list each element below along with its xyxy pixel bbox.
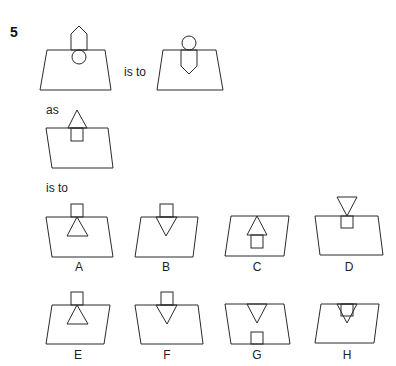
square <box>341 216 353 228</box>
parallelogram <box>46 128 113 168</box>
triangle-down <box>337 304 357 323</box>
option-label: H <box>343 348 352 362</box>
option-e[interactable]: E <box>46 292 110 362</box>
option-label: B <box>162 260 170 274</box>
pentagon-arrow-down <box>181 50 197 74</box>
option-label: F <box>163 348 170 362</box>
pentagon-arrow-up <box>71 26 87 50</box>
option-g[interactable]: G <box>225 304 290 362</box>
square <box>160 204 173 217</box>
parallelogram <box>46 217 113 257</box>
square <box>251 235 263 248</box>
triangle-up <box>247 216 267 235</box>
figure-1 <box>40 26 111 90</box>
connector-is-to-1: is to <box>124 65 146 79</box>
triangle-down <box>337 197 357 216</box>
option-f[interactable]: F <box>135 292 203 362</box>
option-label: C <box>253 260 262 274</box>
square <box>71 292 83 305</box>
parallelogram <box>135 217 198 257</box>
connector-is-to-2: is to <box>46 181 68 195</box>
connector-as: as <box>46 103 59 117</box>
triangle-down <box>156 305 177 324</box>
parallelogram <box>225 304 290 344</box>
square <box>71 128 83 141</box>
triangle-down <box>247 304 267 323</box>
triangle-up <box>67 217 88 236</box>
option-a[interactable]: A <box>46 204 113 274</box>
circle <box>72 50 86 64</box>
option-label: A <box>75 260 83 274</box>
question-number: 5 <box>10 24 18 40</box>
puzzle-canvas: 5 is to as is to A B C <box>0 0 396 366</box>
parallelogram <box>315 216 383 255</box>
option-d[interactable]: D <box>315 197 383 274</box>
option-label: E <box>74 348 82 362</box>
option-label: G <box>252 348 261 362</box>
square <box>251 332 263 344</box>
option-label: D <box>345 260 354 274</box>
option-h[interactable]: H <box>315 304 379 362</box>
option-c[interactable]: C <box>225 216 289 274</box>
triangle-down <box>156 217 177 236</box>
square <box>71 204 83 217</box>
parallelogram <box>135 305 203 344</box>
parallelogram <box>225 216 289 256</box>
trapezoid <box>40 50 111 90</box>
square <box>161 292 173 305</box>
figure-2 <box>157 36 223 90</box>
triangle-up <box>67 305 88 324</box>
circle <box>182 36 196 50</box>
triangle-up <box>68 110 87 128</box>
figure-3 <box>46 110 113 168</box>
option-b[interactable]: B <box>135 204 198 274</box>
trapezoid <box>157 50 223 90</box>
